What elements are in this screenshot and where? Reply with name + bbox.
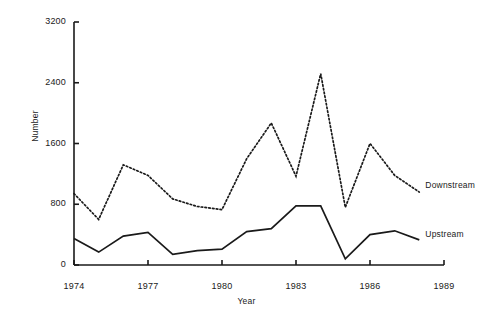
- plot-area: [0, 0, 493, 320]
- series-line-upstream: [74, 206, 419, 259]
- series-label-upstream: Upstream: [425, 229, 463, 239]
- line-chart: Number Year 0800160024003200 19741977198…: [0, 0, 493, 320]
- series-line-downstream: [74, 74, 419, 220]
- series-label-downstream: Downstream: [425, 180, 475, 190]
